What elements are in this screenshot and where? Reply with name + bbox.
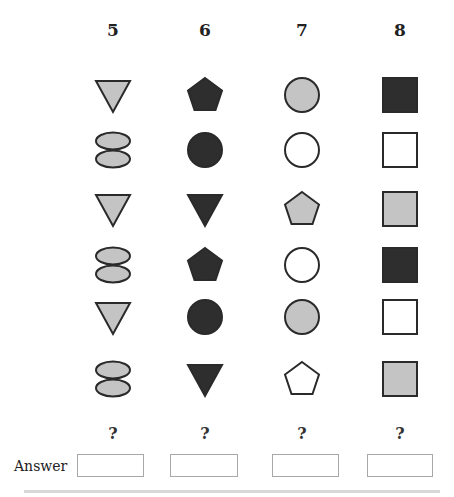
dark-circle-icon <box>185 297 225 337</box>
column-header-6: 6 <box>185 20 225 40</box>
dark-triangle-down-icon <box>185 189 225 229</box>
light-triangle-down-icon <box>93 75 133 115</box>
white-circle-icon <box>282 130 322 170</box>
answer-input-5[interactable] <box>77 454 144 477</box>
white-square-icon <box>380 297 420 337</box>
light-circle-icon <box>282 297 322 337</box>
light-double-ellipse-icon <box>93 245 133 285</box>
column-header-5: 5 <box>93 20 133 40</box>
question-mark-8: ? <box>385 424 415 443</box>
light-square-icon <box>380 359 420 399</box>
bottom-divider <box>24 490 440 493</box>
dark-triangle-down-icon <box>185 359 225 399</box>
dark-square-icon <box>380 245 420 285</box>
answer-label: Answer <box>14 458 67 474</box>
white-circle-icon <box>282 245 322 285</box>
white-square-icon <box>380 130 420 170</box>
answer-input-8[interactable] <box>367 454 433 477</box>
answer-input-7[interactable] <box>272 454 339 477</box>
white-pentagon-icon <box>282 359 322 399</box>
question-mark-7: ? <box>287 424 317 443</box>
light-pentagon-icon <box>282 189 322 229</box>
dark-pentagon-icon <box>185 75 225 115</box>
question-mark-5: ? <box>98 424 128 443</box>
light-double-ellipse-icon <box>93 359 133 399</box>
dark-pentagon-icon <box>185 245 225 285</box>
light-triangle-down-icon <box>93 189 133 229</box>
question-mark-6: ? <box>190 424 220 443</box>
dark-square-icon <box>380 75 420 115</box>
light-circle-icon <box>282 75 322 115</box>
column-header-7: 7 <box>282 20 322 40</box>
dark-circle-icon <box>185 130 225 170</box>
answer-input-6[interactable] <box>170 454 238 477</box>
column-header-8: 8 <box>380 20 420 40</box>
light-double-ellipse-icon <box>93 130 133 170</box>
light-triangle-down-icon <box>93 297 133 337</box>
light-square-icon <box>380 189 420 229</box>
